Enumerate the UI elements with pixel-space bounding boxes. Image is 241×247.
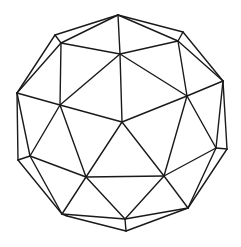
edge-B2-C [120,41,178,54]
edge-M-N2 [126,208,188,231]
edge-G1-K1 [18,160,62,214]
edge-N1-N2 [125,219,126,231]
polyhedron-edges [17,15,227,231]
edge-H-I [86,176,164,177]
edge-E-J1 [187,96,216,148]
edge-L-G1 [17,93,18,160]
edge-A2-L [17,43,61,93]
edge-R-E [187,81,223,96]
edge-D-H [60,105,86,177]
edge-D-G2 [30,105,60,156]
edge-G2-H [30,156,86,177]
edge-J1-M [188,148,216,208]
geodesic-sphere-wireframe [0,0,241,247]
edge-L-D [17,93,60,105]
edge-C-F [120,54,122,122]
edge-J1-J2 [216,148,227,149]
edge-R-J1 [216,81,223,148]
edge-E-I [164,96,187,176]
edge-J2-M [188,149,227,208]
edge-F-H [86,122,122,177]
edge-G1-G2 [18,156,30,160]
edge-B1-R [183,32,223,81]
edge-F-I [122,122,164,176]
edge-C-E [120,54,187,96]
edge-A2-D [60,43,61,105]
edge-A1-L [17,35,55,93]
edge-M-N1 [125,208,188,219]
edge-L-G2 [17,93,30,156]
edge-D-F [60,105,122,122]
edge-A2-C [61,43,120,54]
edge-B1-B2 [178,32,183,41]
edge-E-F [122,96,187,122]
edge-T0-C [118,15,120,54]
edge-R-J2 [223,81,227,149]
edge-B2-R [178,41,223,81]
edge-G2-K1 [30,156,62,214]
edge-A1-A2 [55,35,61,43]
edge-I-J1 [164,148,216,176]
edge-I-M [164,176,188,208]
edge-C-D [60,54,120,105]
edge-T0-A1 [55,15,118,35]
edge-H-K1 [62,177,86,214]
edge-T0-A2 [61,15,118,43]
edge-B2-E [178,41,187,96]
edge-H-N1 [86,177,125,219]
